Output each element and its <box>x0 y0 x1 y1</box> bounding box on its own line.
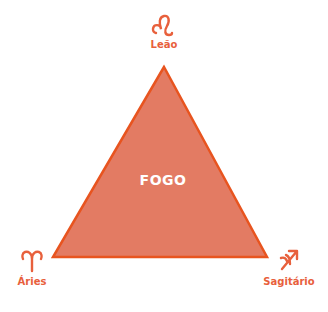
element-label: FOGO <box>140 172 187 188</box>
fire-trine-diagram: Leão Áries Sagitário FOGO <box>0 0 328 312</box>
sagittarius-icon <box>277 246 301 272</box>
sign-label-aries: Áries <box>18 276 47 287</box>
sign-label-leo: Leão <box>151 39 178 50</box>
sign-label-sagittarius: Sagitário <box>263 276 314 287</box>
aries-icon <box>20 249 44 273</box>
leo-icon <box>151 13 175 39</box>
